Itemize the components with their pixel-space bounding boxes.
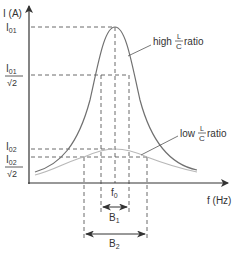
y-axis-label: I (A) — [3, 8, 22, 19]
svg-text:I02: I02 — [6, 154, 17, 166]
high-lc-curve — [35, 27, 197, 172]
svg-text:√2: √2 — [7, 78, 17, 88]
svg-text:low: low — [180, 128, 196, 139]
svg-text:I01: I01 — [6, 63, 17, 75]
svg-text:ratio: ratio — [184, 36, 204, 47]
low-lc-curve — [35, 149, 197, 175]
svg-text:I01: I01 — [6, 22, 17, 34]
f0-label: f0 — [111, 187, 118, 199]
reference-lines — [31, 27, 147, 240]
svg-text:√2: √2 — [7, 169, 17, 179]
svg-text:ratio: ratio — [207, 128, 227, 139]
b2-label: B2 — [109, 238, 120, 250]
svg-text:high: high — [153, 36, 172, 47]
high-leader-line — [128, 45, 151, 56]
i01-label: I01 — [6, 22, 17, 34]
svg-text:I02: I02 — [6, 141, 17, 153]
svg-text:C: C — [176, 42, 182, 51]
low-lc-label: low L C ratio — [180, 125, 227, 143]
i02-label: I02 — [6, 141, 17, 153]
i01-sqrt2-label: I01 √2 — [5, 63, 23, 88]
high-lc-label: high L C ratio — [153, 33, 204, 51]
svg-text:C: C — [199, 134, 205, 143]
resonance-chart: I (A) I01 I01 √2 I02 I02 √2 f0 B1 B2 f (… — [0, 0, 240, 262]
low-leader-line — [141, 136, 178, 155]
svg-text:L: L — [177, 33, 181, 40]
i02-sqrt2-label: I02 √2 — [5, 154, 23, 179]
x-axis-label: f (Hz) — [207, 195, 231, 206]
b1-label: B1 — [109, 212, 120, 224]
svg-text:L: L — [200, 125, 204, 132]
